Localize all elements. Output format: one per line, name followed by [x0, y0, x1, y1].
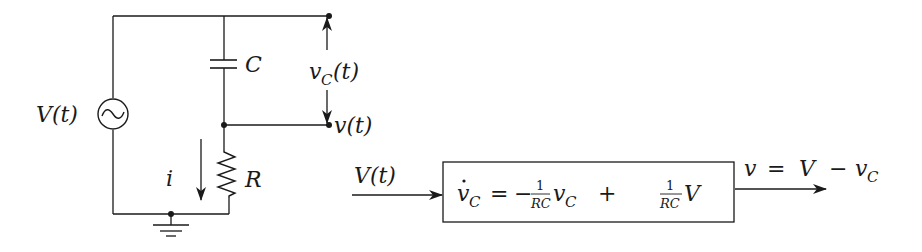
svg-text:RC: RC: [659, 196, 680, 211]
svg-text:(t): (t): [333, 59, 359, 84]
dot-accent: [462, 179, 465, 182]
svg-text:C: C: [867, 168, 879, 186]
capacitor-label: C: [245, 52, 262, 77]
svg-text:C: C: [321, 71, 333, 89]
circuit-diagram: C R V(t) i v C (t) v(t) V(t) v C = −: [0, 0, 922, 252]
junction-node: [221, 122, 227, 128]
source-label: V(t): [36, 102, 78, 127]
svg-text:V: V: [799, 156, 817, 181]
current-label: i: [166, 166, 173, 191]
svg-text:1: 1: [666, 178, 674, 193]
block-input-label: V(t): [354, 163, 396, 188]
ac-source-icon: [98, 99, 128, 129]
svg-text:1: 1: [536, 178, 544, 193]
circuit-wires: [113, 16, 329, 214]
vc-label: v C (t): [309, 59, 359, 89]
svg-text:RC: RC: [530, 196, 551, 211]
svg-text:V: V: [684, 181, 702, 206]
svg-text:=: =: [767, 156, 785, 181]
svg-text:−: −: [514, 181, 532, 206]
output-voltage-label: v(t): [334, 113, 372, 138]
output-equation: v = V − v C: [744, 156, 879, 186]
svg-text:C: C: [469, 193, 481, 211]
ground-icon: [153, 214, 189, 236]
resistor-label: R: [244, 167, 262, 192]
svg-text:=: =: [490, 181, 508, 206]
resistor-symbol: [218, 150, 235, 198]
svg-text:−: −: [829, 156, 847, 181]
svg-text:v: v: [744, 156, 757, 181]
state-equation: v C = − 1 RC v C + 1 RC V: [457, 178, 702, 211]
svg-text:C: C: [565, 193, 577, 211]
svg-text:+: +: [598, 181, 616, 206]
capacitor-symbol: [210, 60, 237, 68]
